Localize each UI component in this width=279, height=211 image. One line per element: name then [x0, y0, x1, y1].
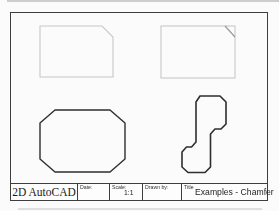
drawing-canvas	[0, 0, 279, 211]
chamfered-rectangle-trimmed	[40, 26, 113, 77]
scanned-drawing-sheet: 2D AutoCAD Date: Scale: 1:1 Drawn by: Ti…	[0, 0, 279, 211]
s-shape-chamfered-outline	[182, 96, 226, 173]
rectangle-before-trim	[161, 26, 235, 78]
chamfer-guide-line	[225, 26, 235, 37]
octagon-chamfered-rectangle	[40, 110, 125, 172]
